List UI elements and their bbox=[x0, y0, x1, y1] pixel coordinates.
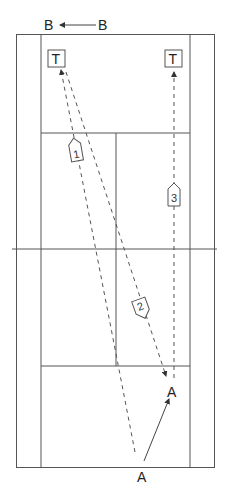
player-a-start-label: A bbox=[137, 469, 147, 485]
target-left: T bbox=[48, 50, 65, 67]
svg-text:T: T bbox=[169, 51, 178, 67]
target-right: T bbox=[165, 50, 182, 67]
shot-1-path bbox=[61, 70, 135, 452]
shot-tag-1: 1 bbox=[68, 137, 84, 162]
player-a-movement bbox=[144, 399, 169, 461]
shot-tag-3: 3 bbox=[168, 183, 180, 206]
svg-text:T: T bbox=[52, 51, 61, 67]
player-b-movement: B B bbox=[44, 17, 107, 33]
court bbox=[12, 34, 217, 468]
shot-tag-2: 2 bbox=[132, 297, 152, 321]
svg-text:3: 3 bbox=[171, 192, 177, 204]
badminton-court-diagram: B B T T 1 2 3 A A bbox=[0, 0, 228, 502]
player-b-label-left: B bbox=[44, 17, 53, 33]
player-a-end-label: A bbox=[167, 384, 177, 400]
player-b-label-right: B bbox=[98, 17, 107, 33]
